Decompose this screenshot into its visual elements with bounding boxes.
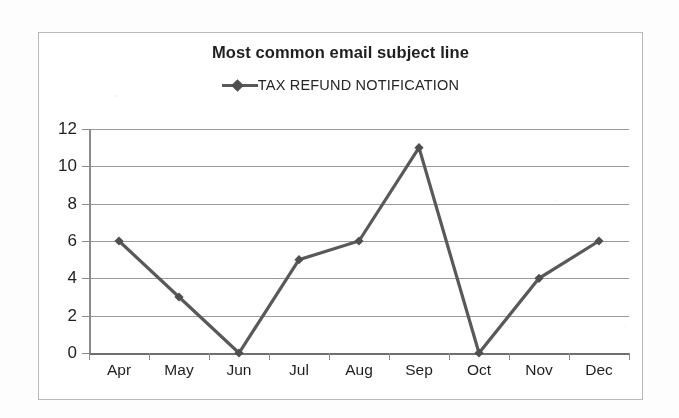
x-axis-tick-label: Nov <box>525 361 553 379</box>
x-axis-tick-label: Jun <box>227 361 252 379</box>
plot-area: 121086420 AprMayJunJulAugSepOctNovDec <box>89 129 629 353</box>
x-axis-tick <box>269 353 270 360</box>
y-axis-tick-label: 0 <box>68 343 77 363</box>
y-axis-tick-label: 12 <box>58 119 77 139</box>
y-axis-tick-label: 4 <box>68 268 77 288</box>
x-axis-tick <box>449 353 450 360</box>
series-line-tax-refund-notification <box>89 129 629 353</box>
x-axis-tick <box>149 353 150 360</box>
x-axis-tick <box>209 353 210 360</box>
x-axis-tick <box>509 353 510 360</box>
y-axis-tick <box>82 278 89 279</box>
x-axis-tick <box>329 353 330 360</box>
chart-frame: Most common email subject line TAX REFUN… <box>38 32 643 400</box>
y-axis-tick <box>82 166 89 167</box>
y-axis-tick-label: 2 <box>68 306 77 326</box>
x-axis-tick <box>569 353 570 360</box>
x-axis-tick-label: Sep <box>405 361 433 379</box>
y-axis-tick <box>82 316 89 317</box>
plot-wrapper: 121086420 AprMayJunJulAugSepOctNovDec <box>51 129 629 387</box>
chart-legend: TAX REFUND NOTIFICATION <box>39 77 642 93</box>
y-axis-tick <box>82 129 89 130</box>
x-axis-tick-label: May <box>164 361 193 379</box>
y-axis-tick-label: 6 <box>68 231 77 251</box>
x-axis-tick <box>629 353 630 360</box>
x-axis-line <box>89 353 629 355</box>
legend-series-label: TAX REFUND NOTIFICATION <box>258 77 459 93</box>
x-axis-tick-label: Aug <box>345 361 373 379</box>
x-axis-tick <box>89 353 90 360</box>
y-axis-tick-label: 8 <box>68 194 77 214</box>
chart-title: Most common email subject line <box>39 43 642 62</box>
x-axis-tick-label: Dec <box>585 361 613 379</box>
x-axis-tick-label: Oct <box>467 361 491 379</box>
x-axis-tick-label: Apr <box>107 361 131 379</box>
legend-diamond-icon <box>231 79 244 92</box>
x-axis-tick-label: Jul <box>289 361 309 379</box>
y-axis-tick <box>82 241 89 242</box>
y-axis-tick <box>82 353 89 354</box>
y-axis-tick-label: 10 <box>58 156 77 176</box>
page-canvas: Most common email subject line TAX REFUN… <box>0 0 679 418</box>
legend-series-marker-icon <box>222 78 258 92</box>
y-axis-tick <box>82 204 89 205</box>
x-axis-tick <box>389 353 390 360</box>
